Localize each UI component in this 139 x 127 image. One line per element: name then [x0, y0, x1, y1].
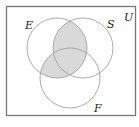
universe-label: U — [124, 11, 134, 24]
venn-diagram: E S F U — [0, 0, 139, 127]
set-f-label: F — [93, 102, 102, 115]
set-e-label: E — [24, 19, 33, 32]
set-s-label: S — [107, 18, 115, 31]
